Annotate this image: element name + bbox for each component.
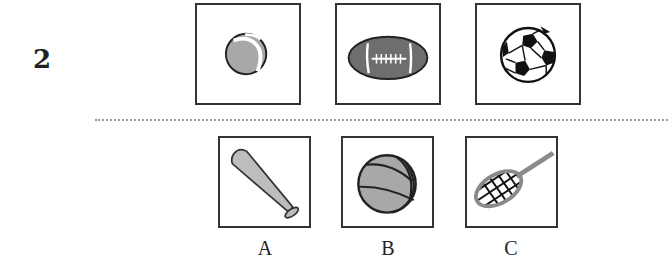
question-number: 2	[33, 44, 51, 74]
prompt-image-american-football	[335, 3, 441, 105]
option-c-image-tennis-racket[interactable]	[465, 136, 558, 228]
american-football-icon	[337, 5, 439, 103]
option-a-label: A	[245, 237, 285, 260]
prompt-image-soccer-ball	[475, 3, 581, 105]
prompt-image-tennis-ball	[195, 3, 301, 105]
baseball-bat-icon	[220, 138, 309, 226]
option-b-label: B	[368, 237, 408, 260]
option-b-image-basketball[interactable]	[341, 136, 434, 228]
tennis-ball-icon	[197, 5, 299, 103]
tennis-racket-icon	[467, 138, 556, 226]
section-divider	[95, 119, 668, 121]
option-a-image-baseball-bat[interactable]	[218, 136, 311, 228]
option-c-label: C	[491, 237, 531, 260]
basketball-icon	[343, 138, 432, 226]
soccer-ball-icon	[477, 5, 579, 103]
